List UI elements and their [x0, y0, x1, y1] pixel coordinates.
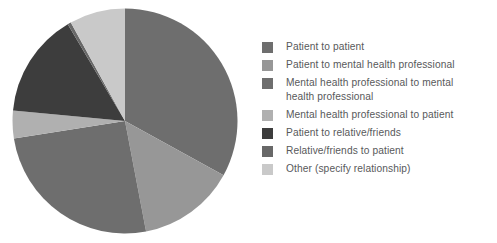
legend-swatch-icon: [262, 128, 273, 139]
legend-swatch-icon: [262, 164, 273, 175]
legend-item-mhp-to-mhp[interactable]: Mental health professional to mental hea…: [262, 76, 494, 102]
legend-swatch-icon: [262, 42, 273, 53]
legend-item-label: Patient to relative/friends: [286, 126, 401, 139]
pie-chart-svg: [12, 8, 238, 234]
legend-swatch-icon: [262, 78, 273, 89]
legend-item-mhp-to-patient[interactable]: Mental health professional to patient: [262, 108, 494, 121]
pie-chart-figure: Patient to patient Patient to mental hea…: [0, 0, 497, 243]
legend-item-patient-to-relative-friends[interactable]: Patient to relative/friends: [262, 126, 494, 139]
legend-item-other[interactable]: Other (specify relationship): [262, 162, 494, 175]
chart-legend: Patient to patient Patient to mental hea…: [262, 40, 494, 181]
legend-swatch-icon: [262, 146, 273, 157]
legend-item-label: Mental health professional to patient: [286, 108, 453, 121]
legend-item-label: Other (specify relationship): [286, 162, 411, 175]
legend-item-relative-friends-to-patient[interactable]: Relative/friends to patient: [262, 144, 494, 157]
legend-item-patient-to-mental-health-professional[interactable]: Patient to mental health professional: [262, 58, 494, 71]
legend-item-patient-to-patient[interactable]: Patient to patient: [262, 40, 494, 53]
legend-item-label: Patient to mental health professional: [286, 58, 455, 71]
legend-swatch-icon: [262, 110, 273, 121]
legend-item-label: Mental health professional to mental hea…: [286, 76, 453, 102]
pie-chart-plot-area: [12, 8, 238, 234]
legend-swatch-icon: [262, 60, 273, 71]
legend-item-label: Patient to patient: [286, 40, 364, 53]
legend-item-label: Relative/friends to patient: [286, 144, 404, 157]
pie-slice[interactable]: [14, 121, 146, 233]
pie-slice-group: [12, 9, 237, 234]
